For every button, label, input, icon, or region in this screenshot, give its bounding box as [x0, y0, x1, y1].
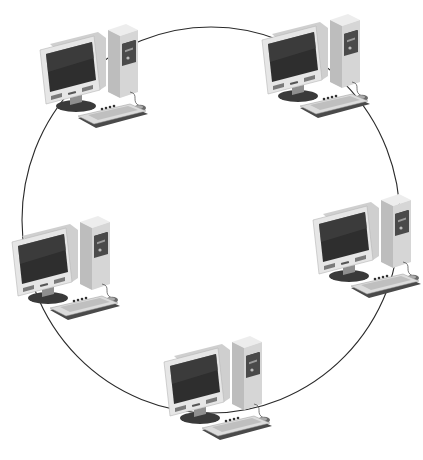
desktop-computer-icon [252, 12, 372, 122]
computer-top-left [30, 22, 150, 132]
desktop-computer-icon [154, 334, 274, 444]
computer-middle-right [303, 192, 423, 302]
desktop-computer-icon [303, 192, 423, 302]
desktop-computer-icon [30, 22, 150, 132]
computer-top-right [252, 12, 372, 122]
computer-middle-left [2, 214, 122, 324]
desktop-computer-icon [2, 214, 122, 324]
computer-bottom [154, 334, 274, 444]
